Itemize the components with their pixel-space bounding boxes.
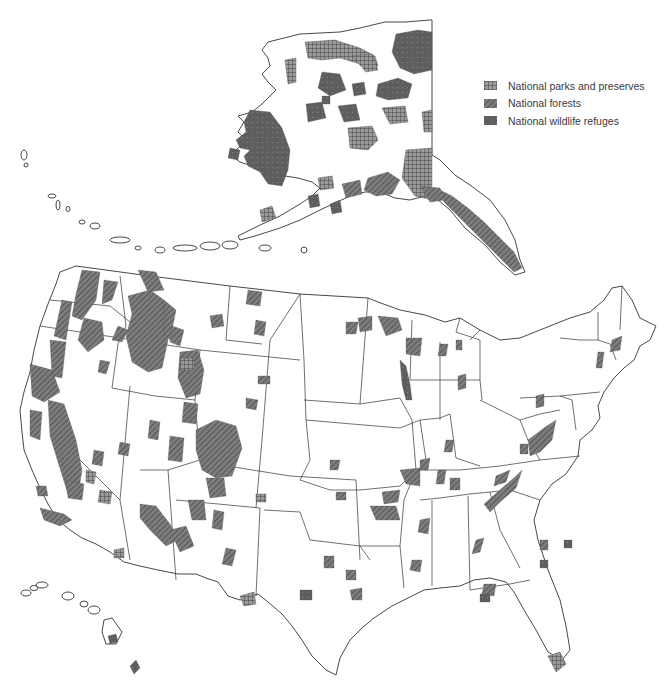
park-yellowstone [180,358,194,370]
forest-idaho [126,290,168,372]
legend-item-forests: National forests [484,95,645,113]
diagonal-hatch-swatch-icon [484,99,497,108]
legend-item-parks: National parks and preserves [484,77,645,95]
alaska [21,20,525,275]
dotted-swatch-icon [484,116,497,125]
legend-label-forests: National forests [508,97,581,109]
map-legend: National parks and preserves National fo… [484,77,645,130]
legend-label-parks: National parks and preserves [508,80,645,92]
us-outline [20,266,656,675]
hawaii [21,582,122,644]
contiguous-us [20,266,656,675]
crosshatch-swatch-icon [484,81,497,90]
legend-label-refuges: National wildlife refuges [508,115,619,127]
legend-item-refuges: National wildlife refuges [484,112,645,130]
